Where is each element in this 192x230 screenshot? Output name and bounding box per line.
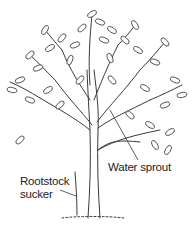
- rootstock-leader: [60, 190, 76, 196]
- water-sprout-label: Water sprout: [108, 161, 171, 173]
- rootstock-sucker-stem: [75, 172, 77, 215]
- rootstock-label-line1: Rootstock: [20, 175, 69, 187]
- ground: [62, 217, 124, 219]
- rootstock-label-line2: sucker: [20, 188, 53, 200]
- trunk: [87, 70, 100, 218]
